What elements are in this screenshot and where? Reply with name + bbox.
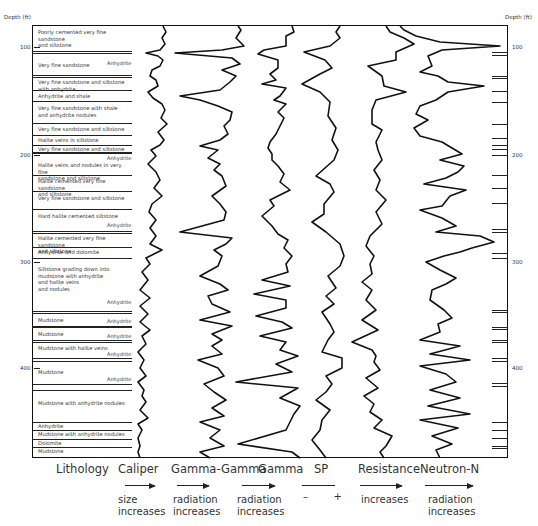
log-curves xyxy=(0,0,538,526)
resistance-arrow-icon xyxy=(360,485,402,486)
track-label-gamma: Gamma xyxy=(258,462,303,476)
gamma-curve xyxy=(236,26,300,458)
gamma-arrow-icon xyxy=(242,485,275,486)
legend-resistance: increases xyxy=(361,494,408,506)
track-label-neutron-n: Neutron-N xyxy=(420,462,479,476)
legend-gamma: radiation increases xyxy=(237,494,284,518)
legend-sp: – + xyxy=(303,491,342,503)
track-label-lithology: Lithology xyxy=(56,462,109,476)
legend-gamma-gamma: radiation increases xyxy=(173,494,220,518)
track-label-sp: SP xyxy=(314,462,328,476)
sp-curve xyxy=(302,26,344,458)
neutron-curve xyxy=(400,26,500,458)
legend-caliper: size increases xyxy=(118,494,165,518)
track-label-gamma-gamma: Gamma-Gamma xyxy=(171,462,266,476)
caliper-arrow-icon xyxy=(125,485,155,486)
gamma-gamma-arrow-icon xyxy=(177,485,209,486)
gamma-gamma-curve xyxy=(175,26,244,458)
track-label-resistance: Resistance xyxy=(358,462,420,476)
legend-neutron-n: radiation increases xyxy=(428,494,475,518)
resistance-curve xyxy=(352,26,414,458)
neutron-arrow-icon xyxy=(425,485,473,486)
caliper-curve xyxy=(138,26,167,458)
sp-scale-line-icon xyxy=(302,485,335,486)
track-label-caliper: Caliper xyxy=(118,462,159,476)
